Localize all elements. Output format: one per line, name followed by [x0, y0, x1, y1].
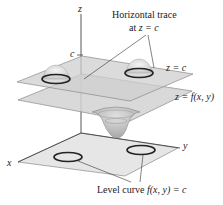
xy-plane	[18, 133, 178, 176]
surface-well	[92, 107, 140, 138]
trace-leader-right	[148, 35, 154, 68]
horizontal-trace-sublabel: at z = c	[129, 22, 159, 33]
x-axis-label: x	[6, 157, 12, 168]
bump-right	[125, 59, 153, 73]
plane-z-equals-c-label: z = c	[165, 62, 187, 73]
surface-label: z = f(x, y)	[174, 91, 215, 103]
diagram-canvas: z c x y Horizontal trace at z = c z = c …	[0, 0, 223, 205]
level-curve-diagram: z c x y Horizontal trace at z = c z = c …	[0, 0, 223, 205]
horizontal-trace-label: Horizontal trace	[112, 9, 177, 20]
level-curve-label: Level curve f(x, y) = c	[97, 184, 187, 196]
c-tick-label: c	[70, 48, 75, 59]
z-axis-label: z	[77, 3, 82, 14]
y-axis-label: y	[182, 140, 188, 151]
